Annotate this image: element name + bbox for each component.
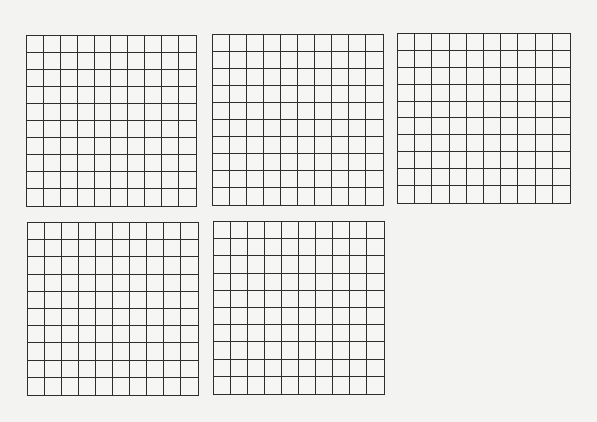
- grid-square: [214, 308, 231, 325]
- grid-square: [248, 256, 265, 273]
- grid-square: [179, 53, 196, 70]
- grid-square: [213, 137, 230, 154]
- grid-square: [432, 51, 449, 68]
- grid-square: [147, 257, 164, 274]
- grid-square: [231, 274, 248, 291]
- grid-square: [553, 118, 570, 135]
- grid-square: [78, 155, 95, 172]
- grid-square: [27, 121, 44, 138]
- grid-square: [316, 377, 333, 394]
- grid-square: [181, 292, 198, 309]
- grid-square: [398, 102, 415, 119]
- grid-square: [130, 223, 147, 240]
- grid-square: [282, 291, 299, 308]
- grid-square: [164, 343, 181, 360]
- grid-square: [484, 68, 501, 85]
- grid-square: [79, 343, 96, 360]
- grid-square: [113, 292, 130, 309]
- grid-square: [264, 69, 281, 86]
- grid-square: [282, 256, 299, 273]
- grid-square: [315, 35, 332, 52]
- grid-square: [145, 121, 162, 138]
- grid-square: [332, 171, 349, 188]
- grid-square: [45, 275, 62, 292]
- grid-square: [366, 137, 383, 154]
- grid-square: [27, 189, 44, 206]
- grid-square: [214, 325, 231, 342]
- grid-square: [214, 360, 231, 377]
- grid-square: [61, 53, 78, 70]
- grid-square: [536, 152, 553, 169]
- grid-square: [61, 36, 78, 53]
- grid-square: [298, 69, 315, 86]
- grid-square: [28, 326, 45, 343]
- grid-square: [281, 171, 298, 188]
- grid-square: [398, 135, 415, 152]
- grid-square: [281, 120, 298, 137]
- grid-square: [113, 309, 130, 326]
- grid-square: [181, 223, 198, 240]
- grid-square: [299, 325, 316, 342]
- grid-square: [147, 378, 164, 395]
- grid-square: [298, 120, 315, 137]
- grid-square: [333, 377, 350, 394]
- grid-square: [213, 120, 230, 137]
- grid-square: [162, 121, 179, 138]
- grid-square: [501, 135, 518, 152]
- grid-square: [518, 51, 535, 68]
- grid-square: [518, 152, 535, 169]
- grid-square: [332, 137, 349, 154]
- hundred-grid-1: [26, 35, 197, 207]
- grid-square: [147, 343, 164, 360]
- grid-square: [179, 121, 196, 138]
- grid-square: [113, 275, 130, 292]
- grid-square: [95, 138, 112, 155]
- grid-square: [179, 172, 196, 189]
- grid-square: [181, 361, 198, 378]
- grid-square: [432, 34, 449, 51]
- grid-square: [62, 257, 79, 274]
- grid-square: [145, 155, 162, 172]
- grid-square: [130, 240, 147, 257]
- grid-square: [553, 186, 570, 203]
- grid-square: [61, 87, 78, 104]
- grid-square: [264, 103, 281, 120]
- grid-square: [111, 36, 128, 53]
- grid-square: [28, 309, 45, 326]
- grid-square: [265, 308, 282, 325]
- grid-square: [415, 68, 432, 85]
- grid-square: [350, 377, 367, 394]
- grid-square: [415, 135, 432, 152]
- grid-square: [367, 274, 384, 291]
- grid-square: [536, 51, 553, 68]
- grid-square: [181, 257, 198, 274]
- grid-square: [333, 239, 350, 256]
- grid-square: [145, 138, 162, 155]
- grid-square: [45, 361, 62, 378]
- grid-square: [45, 326, 62, 343]
- grid-square: [501, 169, 518, 186]
- grid-square: [398, 85, 415, 102]
- grid-square: [281, 103, 298, 120]
- grid-square: [350, 342, 367, 359]
- grid-square: [282, 222, 299, 239]
- grid-square: [501, 85, 518, 102]
- grid-square: [78, 172, 95, 189]
- grid-square: [518, 135, 535, 152]
- grid-square: [95, 104, 112, 121]
- grid-square: [349, 188, 366, 205]
- grid-square: [147, 240, 164, 257]
- grid-square: [79, 361, 96, 378]
- grid-square: [349, 69, 366, 86]
- grid-square: [213, 171, 230, 188]
- grid-square: [333, 274, 350, 291]
- grid-square: [162, 53, 179, 70]
- grid-square: [450, 34, 467, 51]
- grid-square: [181, 309, 198, 326]
- grid-square: [28, 257, 45, 274]
- grid-square: [213, 188, 230, 205]
- grid-square: [247, 69, 264, 86]
- grid-square: [214, 256, 231, 273]
- grid-square: [265, 291, 282, 308]
- grid-square: [264, 188, 281, 205]
